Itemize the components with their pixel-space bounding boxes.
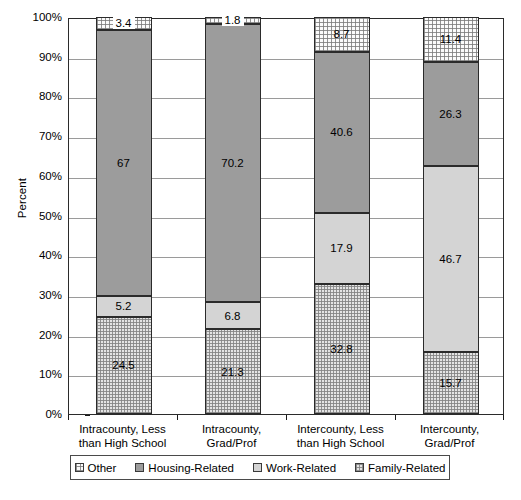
bar-group: 21.36.870.21.8: [178, 19, 287, 414]
bar-segment[interactable]: 1.8: [205, 17, 261, 24]
plot-area: 24.55.2673.421.36.870.21.832.817.940.68.…: [68, 18, 504, 415]
bar-segment[interactable]: 8.7: [314, 17, 370, 52]
y-axis-tick-label: 70%: [22, 131, 62, 142]
y-axis-tick-label: 80%: [22, 91, 62, 102]
bar-segment[interactable]: 67: [96, 30, 152, 296]
y-axis-tick-label: 30%: [22, 290, 62, 301]
bar-segment[interactable]: 5.2: [96, 296, 152, 317]
bar-segment-value-label: 32.8: [330, 343, 352, 355]
bar-segment[interactable]: 6.8: [205, 302, 261, 329]
y-axis-tick-label: 10%: [22, 369, 62, 380]
bar-segment-value-label: 11.4: [440, 33, 462, 45]
x-axis-tick-mark: [503, 415, 504, 420]
x-axis-category-label-line: Intracounty,: [177, 422, 286, 436]
x-axis-tick-mark: [286, 415, 287, 420]
bar-segment-value-label: 3.4: [113, 17, 135, 29]
y-axis-tick-label: 0%: [22, 409, 62, 420]
legend-item-label: Housing-Related: [148, 462, 234, 474]
stacked-bar[interactable]: 24.55.2673.4: [96, 19, 152, 414]
bar-segment[interactable]: 11.4: [423, 17, 479, 62]
x-axis-tick-marks: [68, 415, 504, 421]
y-axis-tick-label: 90%: [22, 52, 62, 63]
bar-segment[interactable]: 70.2: [205, 24, 261, 303]
swatch-other-icon: [75, 463, 84, 472]
stacked-bar[interactable]: 15.746.726.311.4: [423, 19, 479, 414]
bar-group: 15.746.726.311.4: [396, 19, 505, 414]
bar-segment-value-label: 5.2: [116, 300, 132, 312]
swatch-family-icon: [355, 463, 364, 472]
x-axis-tick-mark: [68, 415, 69, 420]
chart-legend: OtherHousing-RelatedWork-RelatedFamily-R…: [70, 455, 450, 480]
x-axis-category-label-line: Grad/Prof: [395, 436, 504, 450]
y-axis-tick-label: 20%: [22, 330, 62, 341]
y-axis-tick-label: 50%: [22, 211, 62, 222]
bar-group: 24.55.2673.4: [69, 19, 178, 414]
bar-segment-value-label: 1.8: [222, 14, 244, 26]
legend-item-label: Work-Related: [266, 462, 336, 474]
bar-segment-value-label: 40.6: [330, 126, 352, 138]
bar-segment-value-label: 8.7: [334, 28, 350, 40]
x-axis-category-label-line: than High School: [286, 436, 395, 450]
bar-segment-value-label: 24.5: [112, 359, 134, 371]
x-axis-tick-mark: [395, 415, 396, 420]
bar-segment[interactable]: 40.6: [314, 52, 370, 213]
stacked-bar[interactable]: 21.36.870.21.8: [205, 19, 261, 414]
bar-segment[interactable]: 15.7: [423, 352, 479, 414]
bars-layer: 24.55.2673.421.36.870.21.832.817.940.68.…: [69, 19, 503, 414]
bar-segment[interactable]: 46.7: [423, 166, 479, 351]
legend-item[interactable]: Family-Related: [355, 462, 445, 474]
bar-segment[interactable]: 32.8: [314, 284, 370, 414]
legend-item-label: Other: [88, 462, 117, 474]
legend-item[interactable]: Other: [75, 462, 117, 474]
bar-segment-value-label: 17.9: [330, 242, 352, 254]
y-axis-tick-label: 100%: [22, 12, 62, 23]
bar-segment-value-label: 21.3: [221, 366, 243, 378]
legend-item-label: Family-Related: [368, 462, 445, 474]
x-axis-category-label-line: Intercounty, Less: [286, 422, 395, 436]
x-axis-tick-mark: [177, 415, 178, 420]
bar-group: 32.817.940.68.7: [287, 19, 396, 414]
bar-segment-value-label: 67: [117, 157, 130, 169]
x-axis-category-label-line: Intercounty,: [395, 422, 504, 436]
swatch-work-icon: [253, 463, 262, 472]
bar-segment[interactable]: 26.3: [423, 62, 479, 166]
x-axis-category-label-line: Intracounty, Less: [68, 422, 177, 436]
legend-item[interactable]: Work-Related: [253, 462, 336, 474]
x-axis-category-label-line: than High School: [68, 436, 177, 450]
x-axis-category-label: Intercounty,Grad/Prof: [395, 422, 504, 450]
bar-segment-value-label: 15.7: [439, 377, 461, 389]
bar-segment-value-label: 26.3: [439, 108, 461, 120]
bar-segment-value-label: 46.7: [439, 253, 461, 265]
x-axis-category-label: Intracounty,Grad/Prof: [177, 422, 286, 450]
bar-segment[interactable]: 24.5: [96, 317, 152, 414]
bar-segment-value-label: 70.2: [221, 157, 243, 169]
x-axis-category-label: Intercounty, Lessthan High School: [286, 422, 395, 450]
bar-segment[interactable]: 17.9: [314, 213, 370, 284]
stacked-bar[interactable]: 32.817.940.68.7: [314, 19, 370, 414]
y-axis-tick-label: 40%: [22, 250, 62, 261]
legend-item[interactable]: Housing-Related: [135, 462, 234, 474]
bar-segment[interactable]: 3.4: [96, 17, 152, 30]
x-axis-category-labels: Intracounty, Lessthan High SchoolIntraco…: [68, 422, 504, 456]
y-axis-tick-label: 60%: [22, 171, 62, 182]
stacked-bar-chart-figure: Percent 0%10%20%30%40%50%60%70%80%90%100…: [0, 0, 521, 500]
bar-segment-value-label: 6.8: [225, 310, 241, 322]
x-axis-category-label: Intracounty, Lessthan High School: [68, 422, 177, 450]
bar-segment[interactable]: 21.3: [205, 329, 261, 414]
x-axis-category-label-line: Grad/Prof: [177, 436, 286, 450]
y-axis-tick-labels: 0%10%20%30%40%50%60%70%80%90%100%: [22, 18, 62, 415]
swatch-housing-icon: [135, 463, 144, 472]
